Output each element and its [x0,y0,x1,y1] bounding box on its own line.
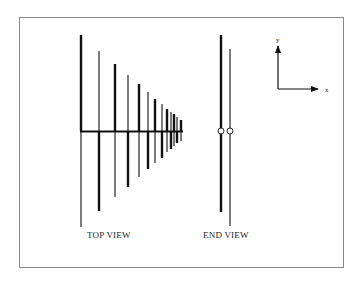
coordinate-axes: y x [276,36,329,94]
log-periodic-antenna-diagram: TOP VIEW END VIEW y x [0,0,364,284]
top-view-label: TOP VIEW [87,230,131,240]
feed-point-circles [218,128,233,134]
y-axis-label: y [276,36,280,44]
end-view-drawing [218,35,233,226]
feed-point-circle-icon [227,128,233,134]
feed-point-circle-icon [218,128,224,134]
top-view-drawing [80,35,183,227]
x-axis-label: x [325,86,329,94]
end-view-label: END VIEW [203,230,249,240]
